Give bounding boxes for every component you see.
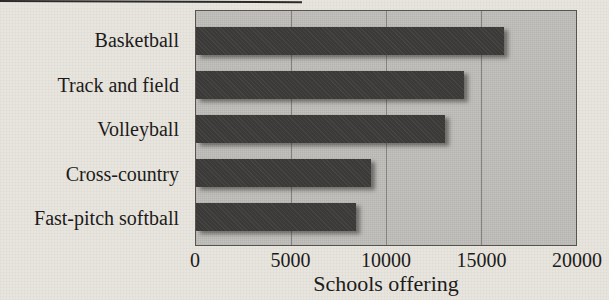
bar [196,159,371,187]
category-label: Basketball [0,26,187,54]
bar-row [196,115,576,143]
bar [196,27,504,55]
bar-row [196,71,576,99]
bar-row [196,27,576,55]
category-axis: BasketballTrack and fieldVolleyballCross… [0,10,187,246]
scan-artifact-line [0,0,302,3]
category-label: Cross-country [0,160,187,188]
x-tick-label: 10000 [361,249,411,272]
category-label: Fast-pitch softball [0,204,187,232]
bar-chart: BasketballTrack and fieldVolleyballCross… [0,0,609,300]
category-label: Volleyball [0,115,187,143]
bar-row [196,159,576,187]
x-tick-label: 5000 [271,249,311,272]
category-label: Track and field [0,71,187,99]
x-axis-ticks: 05000100001500020000 [195,249,577,273]
bar [196,203,356,231]
x-tick-label: 0 [190,249,200,272]
bars-container [196,11,576,245]
x-tick-label: 15000 [457,249,507,272]
bar [196,115,445,143]
x-tick-label: 20000 [552,249,602,272]
bar-row [196,203,576,231]
x-axis-title: Schools offering [195,271,577,297]
bar [196,71,464,99]
plot-area [195,10,577,246]
